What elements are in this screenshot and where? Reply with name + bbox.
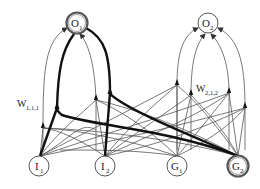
column-arrowheads	[41, 79, 247, 128]
diagram-svg: O 1 O 2 I 1 I 2 G 1 G 2 W 1,1,1 W 2,1,2	[0, 0, 260, 189]
node-i2: I 2	[95, 156, 115, 176]
svg-text:O: O	[71, 17, 79, 29]
node-i1: I 1	[29, 156, 49, 176]
svg-text:2: 2	[106, 167, 110, 175]
svg-text:G: G	[171, 160, 179, 172]
node-o2: O 2	[198, 13, 218, 33]
svg-text:I: I	[35, 160, 39, 172]
svg-text:2,1,2: 2,1,2	[205, 89, 218, 96]
svg-text:O: O	[202, 17, 210, 29]
svg-text:2: 2	[240, 167, 244, 175]
svg-text:1: 1	[40, 167, 44, 175]
node-g1: G 1	[167, 156, 187, 176]
svg-text:G: G	[232, 160, 240, 172]
svg-text:2: 2	[210, 24, 214, 32]
weight-label-w212: W 2,1,2	[196, 83, 218, 96]
svg-text:1: 1	[179, 167, 183, 175]
network-diagram: O 1 O 2 I 1 I 2 G 1 G 2 W 1,1,1 W 2,1,2	[0, 0, 260, 189]
svg-text:I: I	[101, 160, 105, 172]
svg-text:1,1,1: 1,1,1	[26, 104, 39, 111]
node-o1: O 1	[67, 13, 88, 34]
svg-text:1: 1	[79, 24, 83, 32]
weight-label-w111: W 1,1,1	[17, 98, 39, 111]
node-g2: G 2	[228, 156, 249, 177]
